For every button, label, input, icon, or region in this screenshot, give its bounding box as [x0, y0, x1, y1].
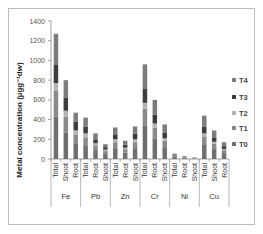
bar-segment-t1 — [212, 144, 217, 149]
bar-segment-t4 — [113, 127, 118, 134]
bar-segment-t2 — [93, 143, 98, 145]
category-label: Root — [221, 163, 228, 178]
bar-segment-t4 — [153, 100, 158, 115]
bar-segment-t3 — [222, 146, 227, 149]
stacked-bar-chart: 0200400600800100012001400Metal concentra… — [0, 0, 263, 234]
bar-segment-t3 — [162, 132, 167, 138]
bar-segment-t2 — [143, 103, 148, 109]
bar-segment-t2 — [222, 149, 227, 150]
group-label-pb: Pb — [91, 192, 100, 201]
bar-segment-t1 — [172, 156, 177, 157]
bar-segment-t0 — [64, 132, 68, 159]
y-tick-label: 600 — [33, 96, 45, 103]
category-label: Shoot — [62, 163, 69, 181]
category-label: Root — [181, 163, 188, 178]
bar-segment-t1 — [73, 134, 78, 143]
category-label: Total — [141, 163, 148, 178]
category-label: Total — [82, 163, 89, 178]
bar-segment-t4 — [222, 142, 227, 146]
bar-segment-t1 — [123, 149, 128, 152]
bar-segment-t1 — [64, 117, 68, 133]
bar-segment-t0 — [133, 148, 138, 159]
y-tick-label: 1200 — [29, 37, 45, 44]
bar-segment-t0 — [73, 143, 78, 159]
bar-segment-t0 — [93, 150, 98, 159]
bar-segment-t2 — [202, 133, 207, 136]
bar-segment-t0 — [143, 125, 148, 159]
y-tick-label: 400 — [33, 116, 45, 123]
bar-segment-t1 — [54, 91, 59, 117]
bar-segment-t2 — [212, 142, 217, 144]
bar-segment-t3 — [64, 98, 68, 111]
bar-segment-t4 — [83, 118, 88, 127]
bar-segment-t3 — [73, 122, 78, 131]
bar-segment-t2 — [113, 139, 118, 142]
bar-segment-t1 — [133, 142, 138, 148]
bar-segment-t4 — [93, 133, 98, 139]
bar-segment-t4 — [54, 34, 59, 65]
bar-segment-t3 — [143, 89, 148, 103]
bar-segment-t0 — [212, 149, 217, 159]
bar-segment-t1 — [113, 142, 118, 148]
bar-segment-t0 — [162, 147, 167, 159]
y-tick-label: 800 — [33, 77, 45, 84]
y-tick-label: 1400 — [29, 18, 45, 25]
y-tick-label: 0 — [41, 156, 45, 163]
bar-segment-t1 — [103, 151, 108, 154]
bar-segment-t3 — [93, 139, 98, 143]
bar-segment-t0 — [123, 153, 128, 159]
category-label: Total — [112, 163, 119, 178]
legend-label-t3: T3 — [239, 93, 248, 102]
bar-segment-t2 — [162, 138, 167, 140]
category-label: Root — [151, 163, 158, 178]
bar-segment-t4 — [64, 80, 68, 98]
bar-segment-t1 — [202, 136, 207, 144]
category-label: Shoot — [191, 163, 198, 181]
y-tick-label: 200 — [33, 136, 45, 143]
bar-segment-t3 — [123, 145, 128, 148]
bar-segment-t1 — [222, 150, 227, 153]
bar-segment-t4 — [172, 154, 177, 155]
bar-segment-t4 — [73, 113, 78, 122]
bar-segment-t1 — [182, 157, 187, 158]
category-label: Shoot — [161, 163, 168, 181]
legend-label-t4: T4 — [239, 76, 249, 85]
bar-segment-t2 — [54, 83, 59, 91]
bar-segment-t0 — [182, 158, 187, 159]
legend-swatch-t4 — [232, 78, 236, 82]
bar-segment-t0 — [83, 145, 88, 159]
group-label-zn: Zn — [121, 192, 130, 201]
bar-segment-t2 — [73, 130, 78, 134]
bar-segment-t3 — [172, 155, 177, 156]
legend-swatch-t1 — [232, 126, 236, 130]
category-label: Shoot — [211, 163, 218, 181]
bar-segment-t1 — [162, 141, 167, 147]
bar-segment-t3 — [153, 115, 158, 124]
bar-segment-t0 — [172, 157, 177, 159]
category-label: Total — [52, 163, 59, 178]
bar-segment-t2 — [64, 111, 68, 117]
legend-swatch-t0 — [232, 142, 236, 146]
legend-swatch-t3 — [232, 95, 236, 99]
bar-segment-t3 — [202, 126, 207, 133]
category-label: Root — [122, 163, 129, 178]
bar-segment-t0 — [153, 138, 158, 159]
bar-segment-t4 — [202, 116, 207, 127]
bar-segment-t4 — [123, 141, 128, 145]
category-label: Total — [171, 163, 178, 178]
bar-segment-t4 — [103, 144, 108, 147]
bar-segment-t0 — [202, 144, 207, 159]
category-label: Shoot — [102, 163, 109, 181]
category-label: Total — [201, 163, 208, 178]
legend-label-t0: T0 — [239, 140, 248, 149]
category-label: Root — [92, 163, 99, 178]
bar-segment-t3 — [133, 134, 138, 139]
bar-segment-t2 — [83, 133, 88, 137]
bar-segment-t4 — [133, 126, 138, 133]
category-label: Shoot — [132, 163, 139, 181]
bar-segment-t4 — [143, 64, 148, 89]
bar-segment-t2 — [103, 150, 108, 151]
bar-segment-t3 — [113, 134, 118, 139]
bar-segment-t2 — [123, 148, 128, 149]
bar-segment-t0 — [222, 153, 227, 159]
